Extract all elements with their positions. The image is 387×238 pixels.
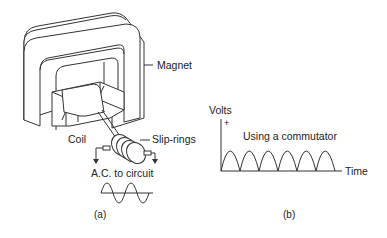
arrow-down-icon: [152, 159, 158, 164]
caption-a: (a): [94, 209, 106, 220]
y-axis-sign: +: [224, 118, 229, 128]
arrow-down-icon: [93, 159, 99, 164]
rectified-wave: [221, 151, 335, 171]
x-axis-label: Time: [345, 165, 368, 177]
commutator-graph: [221, 119, 342, 171]
y-axis-label: Volts: [209, 104, 232, 116]
slip-rings-label: Slip-rings: [152, 133, 196, 145]
magnet-label: Magnet: [157, 59, 192, 71]
output-label: A.C. to circuit: [91, 167, 154, 179]
caption-b: (b): [283, 209, 295, 220]
graph-annotation: Using a commutator: [243, 130, 337, 142]
coil-label: Coil: [68, 133, 86, 145]
generator-diagram: Magnet Coil Slip-rings A.C. to circuit (…: [0, 0, 387, 238]
